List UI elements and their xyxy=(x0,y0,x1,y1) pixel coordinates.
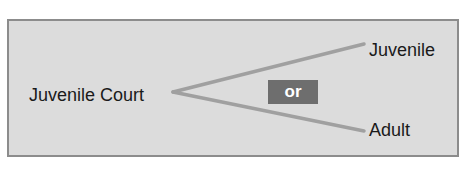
branch-label-adult: Adult xyxy=(369,121,410,139)
source-node-label: Juvenile Court xyxy=(29,86,144,104)
or-connector-badge: or xyxy=(268,80,318,104)
branch-label-juvenile: Juvenile xyxy=(369,41,435,59)
